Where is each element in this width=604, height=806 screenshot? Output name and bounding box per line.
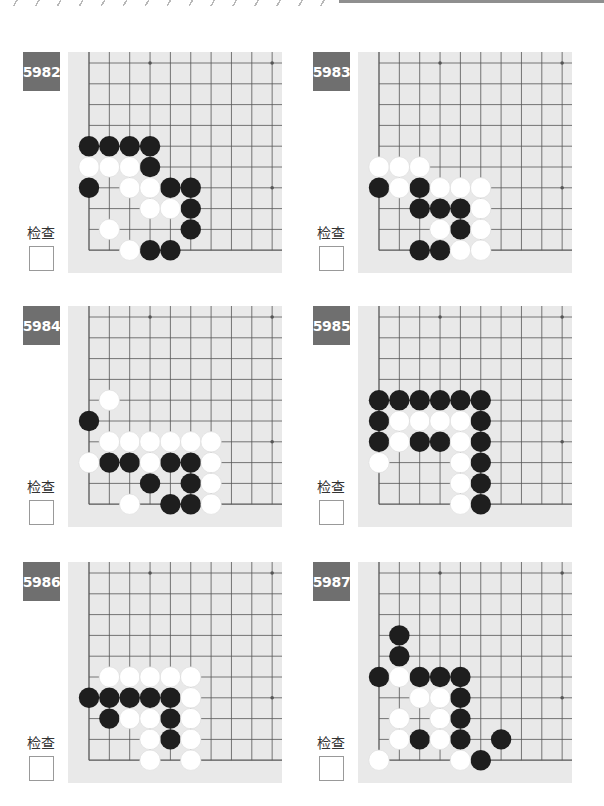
go-board xyxy=(358,306,572,527)
problem-number: 5986 xyxy=(23,562,60,601)
white-stone xyxy=(410,688,430,708)
black-stone xyxy=(369,411,389,431)
black-stone xyxy=(471,473,491,493)
white-stone xyxy=(140,178,160,198)
go-board xyxy=(358,52,572,273)
black-stone xyxy=(450,667,470,687)
black-stone xyxy=(181,494,201,514)
black-stone xyxy=(410,667,430,687)
go-board xyxy=(68,306,282,527)
white-stone xyxy=(120,667,140,687)
black-stone xyxy=(79,411,99,431)
white-stone xyxy=(430,178,450,198)
white-stone xyxy=(389,432,409,452)
black-stone xyxy=(160,494,180,514)
white-stone xyxy=(369,750,389,770)
black-stone xyxy=(430,240,450,260)
black-stone xyxy=(450,708,470,728)
white-stone xyxy=(450,411,470,431)
black-stone xyxy=(99,708,119,728)
check-checkbox[interactable] xyxy=(29,756,54,781)
black-stone xyxy=(491,729,511,749)
white-stone xyxy=(140,452,160,472)
white-stone xyxy=(181,708,201,728)
black-stone xyxy=(389,625,409,645)
black-stone xyxy=(450,729,470,749)
check-label: 检查 xyxy=(317,476,345,496)
problem-5985: 5985 检查 xyxy=(313,306,575,531)
board-grid xyxy=(358,562,572,783)
white-stone xyxy=(450,432,470,452)
white-stone xyxy=(471,178,491,198)
check-checkbox[interactable] xyxy=(29,246,54,271)
check-checkbox[interactable] xyxy=(29,500,54,525)
white-stone xyxy=(450,750,470,770)
go-board xyxy=(358,562,572,783)
white-stone xyxy=(99,390,119,410)
check-checkbox[interactable] xyxy=(319,246,344,271)
white-stone xyxy=(140,750,160,770)
white-stone xyxy=(450,178,470,198)
board-grid xyxy=(358,52,572,273)
go-board xyxy=(68,562,282,783)
check-label: 检查 xyxy=(27,732,55,752)
white-stone xyxy=(181,688,201,708)
white-stone xyxy=(201,452,221,472)
white-stone xyxy=(410,157,430,177)
check-label: 检查 xyxy=(317,222,345,242)
white-stone xyxy=(140,708,160,728)
white-stone xyxy=(181,432,201,452)
black-stone xyxy=(160,452,180,472)
black-stone xyxy=(181,473,201,493)
white-stone xyxy=(140,729,160,749)
check-checkbox[interactable] xyxy=(319,500,344,525)
white-stone xyxy=(79,157,99,177)
white-stone xyxy=(369,452,389,472)
white-stone xyxy=(120,240,140,260)
white-stone xyxy=(430,729,450,749)
black-stone xyxy=(160,178,180,198)
black-stone xyxy=(450,219,470,239)
hatch-pattern xyxy=(0,0,335,6)
black-stone xyxy=(369,667,389,687)
white-stone xyxy=(389,157,409,177)
check-checkbox[interactable] xyxy=(319,756,344,781)
white-stone xyxy=(450,452,470,472)
black-stone xyxy=(99,688,119,708)
black-stone xyxy=(140,688,160,708)
white-stone xyxy=(140,432,160,452)
white-stone xyxy=(181,729,201,749)
white-stone xyxy=(389,667,409,687)
white-stone xyxy=(181,750,201,770)
black-stone xyxy=(471,750,491,770)
white-stone xyxy=(450,494,470,514)
black-stone xyxy=(471,411,491,431)
black-stone xyxy=(99,452,119,472)
problem-number: 5982 xyxy=(23,52,60,91)
black-stone xyxy=(160,240,180,260)
white-stone xyxy=(471,219,491,239)
white-stone xyxy=(201,432,221,452)
white-stone xyxy=(181,667,201,687)
problem-5987: 5987 检查 xyxy=(313,562,575,787)
black-stone xyxy=(140,157,160,177)
white-stone xyxy=(430,708,450,728)
black-stone xyxy=(369,390,389,410)
black-stone xyxy=(140,473,160,493)
problem-5983: 5983 检查 xyxy=(313,52,575,277)
white-stone xyxy=(450,240,470,260)
white-stone xyxy=(160,198,180,218)
board-grid xyxy=(68,52,282,273)
white-stone xyxy=(430,219,450,239)
white-stone xyxy=(450,473,470,493)
white-stone xyxy=(140,667,160,687)
white-stone xyxy=(79,452,99,472)
white-stone xyxy=(160,667,180,687)
black-stone xyxy=(430,432,450,452)
go-board xyxy=(68,52,282,273)
black-stone xyxy=(430,198,450,218)
black-stone xyxy=(450,688,470,708)
black-stone xyxy=(160,708,180,728)
board-grid xyxy=(358,306,572,527)
black-stone xyxy=(450,390,470,410)
